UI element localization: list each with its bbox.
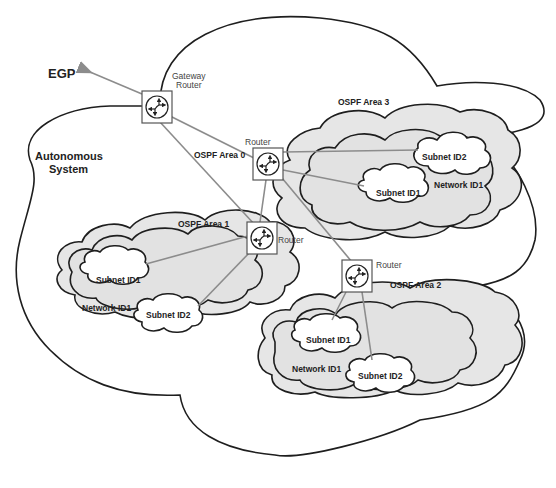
- area3-subnet1-label: Subnet ID1: [376, 188, 421, 198]
- area3-label: OSPF Area 3: [338, 97, 389, 107]
- area1-network-label: Network ID1: [82, 303, 131, 313]
- area1-router-icon[interactable]: [247, 222, 277, 254]
- area3-router-icon[interactable]: [253, 148, 283, 180]
- area3-network-label: Network ID1: [434, 180, 483, 190]
- area1-subnet1-label: Subnet ID1: [96, 275, 141, 285]
- area3-router-label: Router: [245, 137, 271, 147]
- egp-label: EGP: [48, 66, 76, 81]
- area1-subnet2-label: Subnet ID2: [146, 310, 191, 320]
- area2-network-label: Network ID1: [292, 364, 341, 374]
- area1-label: OSPF Area 1: [178, 219, 229, 229]
- area2-router-label: Router: [376, 260, 402, 270]
- backbone-label: OSPF Area 0: [194, 150, 245, 160]
- area2-subnet1-label: Subnet ID1: [306, 335, 351, 345]
- as-label-line2: System: [49, 163, 88, 175]
- egp-link: [90, 72, 142, 94]
- area2-subnet2-label: Subnet ID2: [358, 371, 403, 381]
- gateway-router-icon[interactable]: [142, 91, 172, 123]
- area2-router-icon[interactable]: [342, 260, 372, 292]
- as-label-line1: Autonomous: [35, 150, 103, 162]
- area1-router-label: Router: [278, 235, 304, 245]
- gateway-router-label-line2: Router: [176, 80, 202, 90]
- area2-label: OSPF Area 2: [390, 280, 441, 290]
- area3-subnet2-label: Subnet ID2: [422, 152, 467, 162]
- ospf-diagram: EGP Autonomous System OSPF Area 0 Gatewa…: [0, 0, 556, 488]
